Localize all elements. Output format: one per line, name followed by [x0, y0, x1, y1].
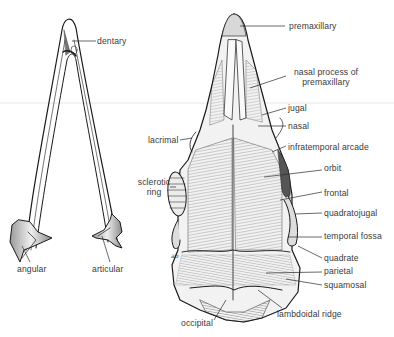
label-squamosal: squamosal — [324, 280, 366, 290]
label-temporal-fossa: temporal fossa — [324, 231, 382, 241]
label-sclerotic-ring-line1: sclerotic — [136, 177, 172, 187]
label-dentary: dentary — [97, 36, 126, 46]
label-nasal-process-line2: premaxillary — [286, 77, 366, 87]
svg-text:ab: ab — [171, 252, 179, 259]
label-frontal: frontal — [324, 188, 349, 198]
label-quadratojugal: quadratojugal — [324, 208, 377, 218]
label-articular: articular — [92, 264, 123, 274]
label-angular: angular — [17, 264, 46, 274]
label-lacrimal: lacrimal — [148, 135, 178, 145]
label-premaxillary: premaxillary — [289, 21, 337, 31]
label-occipital: occipital — [181, 318, 213, 328]
label-lambdoidal-ridge: lambdoidal ridge — [277, 309, 342, 319]
skull-drawing: ab — [166, 14, 300, 322]
label-infratemporal-arcade: infratemporal arcade — [288, 142, 369, 152]
label-parietal: parietal — [324, 266, 353, 276]
label-nasal-process: nasal process of premaxillary — [286, 67, 366, 87]
anatomy-figure: ab dentary lacrimal scleroti — [0, 0, 394, 337]
label-jugal: jugal — [288, 103, 307, 113]
label-sclerotic-ring-line2: ring — [136, 187, 172, 197]
mandible-drawing — [10, 19, 122, 262]
label-sclerotic-ring: sclerotic ring — [136, 177, 172, 197]
label-nasal-process-line1: nasal process of — [286, 67, 366, 77]
label-orbit: orbit — [324, 163, 341, 173]
label-nasal: nasal — [288, 121, 309, 131]
label-quadrate: quadrate — [324, 253, 359, 263]
